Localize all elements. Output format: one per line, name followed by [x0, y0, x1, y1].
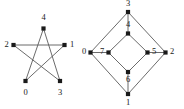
- pentagram-graph-edges: [14, 29, 65, 82]
- graph-edge: [44, 29, 61, 82]
- graph-edge: [128, 53, 148, 73]
- nested-diamond-graph: 34075261: [82, 0, 174, 107]
- graph-node-label-3: 3: [126, 0, 130, 8]
- graph-node-7: [106, 50, 110, 54]
- graph-edge: [91, 53, 129, 95]
- graph-node-label-4: 4: [41, 12, 46, 22]
- pentagram-graph-nodes: 01234: [4, 12, 74, 97]
- graph-node-5: [145, 50, 149, 54]
- graph-node-label-0: 0: [82, 46, 86, 56]
- graph-node-3: [126, 10, 130, 14]
- graph-diagram-pair: 0123434075261: [0, 0, 184, 109]
- graph-edge: [14, 45, 61, 81]
- graph-node-label-4: 4: [126, 19, 131, 29]
- graph-figure-canvas: 0123434075261: [0, 0, 184, 109]
- graph-node-1: [62, 43, 66, 47]
- graph-edge: [128, 34, 148, 53]
- graph-edge: [109, 34, 129, 53]
- graph-edge: [128, 12, 166, 53]
- graph-node-label-5: 5: [152, 46, 156, 56]
- graph-node-label-1: 1: [126, 97, 130, 107]
- graph-node-label-7: 7: [100, 46, 104, 56]
- graph-node-label-2: 2: [170, 46, 174, 56]
- graph-node-3: [58, 79, 62, 83]
- graph-node-2: [163, 50, 167, 54]
- graph-node-label-2: 2: [4, 39, 8, 49]
- graph-edge: [128, 53, 166, 95]
- pentagram-graph: 01234: [4, 12, 74, 97]
- graph-node-4: [41, 26, 45, 30]
- graph-edge: [91, 12, 129, 53]
- graph-node-4: [126, 31, 130, 35]
- graph-node-1: [126, 92, 130, 96]
- graph-node-label-3: 3: [58, 87, 62, 97]
- graph-node-0: [88, 50, 92, 54]
- graph-node-0: [23, 79, 27, 83]
- graph-node-label-6: 6: [126, 74, 130, 84]
- graph-edge: [109, 53, 129, 73]
- graph-node-label-1: 1: [70, 39, 74, 49]
- graph-node-label-0: 0: [23, 87, 27, 97]
- graph-node-2: [11, 43, 15, 47]
